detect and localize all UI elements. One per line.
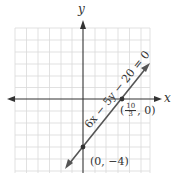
x-axis-label: x — [164, 92, 171, 104]
point-y-intercept — [81, 145, 86, 150]
x-axis — [7, 96, 162, 102]
x-intercept-label-prefix: ( — [120, 104, 124, 117]
y-intercept-label: (0, −4) — [90, 156, 129, 167]
coordinate-plane — [0, 0, 175, 173]
x-intercept-label: (103, 0) — [120, 103, 156, 118]
x-intercept-label-suffix: , 0) — [137, 104, 155, 117]
arrow-right-icon — [154, 96, 162, 102]
arrow-left-icon — [7, 96, 15, 102]
fraction: 103 — [125, 103, 136, 118]
point-x-intercept — [120, 97, 125, 102]
y-axis-label: y — [78, 3, 85, 15]
fraction-denominator: 3 — [129, 111, 133, 118]
arrow-up-icon — [80, 20, 86, 29]
